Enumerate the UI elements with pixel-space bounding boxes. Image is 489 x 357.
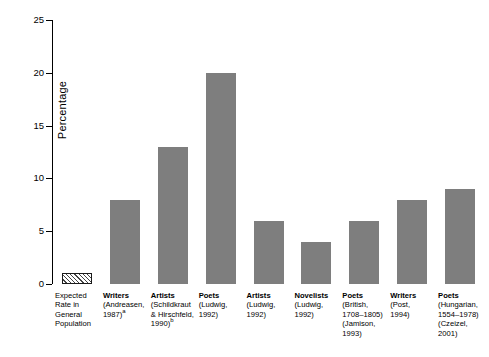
bar-slot: [206, 20, 236, 284]
x-axis-label-line: 1994): [390, 310, 444, 319]
bar-slot: [301, 20, 331, 284]
x-axis-label-head: Artists: [247, 291, 301, 300]
y-tick-label: 10: [18, 173, 44, 183]
y-tick-label-text: 10: [22, 173, 44, 183]
x-axis-label-head: Poets: [438, 291, 489, 300]
bar-slot: [158, 20, 188, 284]
x-axis-label-line: 1992): [199, 310, 253, 319]
y-tick-label: 15: [18, 121, 44, 131]
x-axis-label-head: Expected: [55, 291, 109, 300]
x-axis-label: Poets(Ludwig,1992): [199, 291, 253, 319]
x-axis-label: Poets(British,1708–1805)(Jamison,1993): [342, 291, 396, 338]
x-axis-label-line: General: [55, 310, 109, 319]
x-axis-label-line: 1990)b: [151, 319, 205, 328]
x-axis-label-superscript: a: [122, 308, 125, 314]
bar-slot: [349, 20, 379, 284]
x-axis-label-line: (Hungarian,: [438, 300, 489, 309]
x-axis-label-line: (Ludwig,: [247, 300, 301, 309]
y-tick-mark: [46, 20, 52, 21]
x-axis-label: Novelists(Ludwig,1992): [294, 291, 348, 319]
y-tick-label-text: 15: [22, 121, 44, 131]
x-axis-label-line: 2001): [438, 329, 489, 338]
y-tick-label: 0: [18, 279, 44, 289]
x-axis-label-line: 1992): [294, 310, 348, 319]
x-axis-label: ExpectedRate inGeneralPopulation: [55, 291, 109, 329]
x-axis-label-line: 1987)a: [103, 310, 157, 319]
y-tick-label-text: 5: [22, 226, 44, 236]
x-axis-label-line: (British,: [342, 300, 396, 309]
x-axis-label-superscript: b: [170, 318, 173, 324]
y-tick-label-text: 20: [22, 68, 44, 78]
bar[interactable]: [349, 221, 379, 284]
x-axis-label-head: Poets: [199, 291, 253, 300]
bar-slot: [445, 20, 475, 284]
x-axis-label-head: Novelists: [294, 291, 348, 300]
x-axis-label: Poets(Hungarian,1554–1978)(Czeizel,2001): [438, 291, 489, 338]
bar-slot: [110, 20, 140, 284]
x-axis-label-head: Poets: [342, 291, 396, 300]
y-tick-label: 20: [18, 68, 44, 78]
y-tick-mark: [46, 284, 52, 285]
x-axis-label-line: (Ludwig,: [199, 300, 253, 309]
x-axis-label-head: Writers: [103, 291, 157, 300]
y-tick-mark: [46, 178, 52, 179]
x-axis-label: Artists(Schildkraut& Hirschfeld,1990)b: [151, 291, 205, 329]
bar[interactable]: [206, 73, 236, 284]
x-axis-label-line: (Jamison,: [342, 319, 396, 328]
bar-slot: [62, 20, 92, 284]
x-axis-label-head: Artists: [151, 291, 205, 300]
x-axis-label-line: 1554–1978): [438, 310, 489, 319]
plot-area: [53, 20, 484, 284]
x-axis-label-line: & Hirschfeld,: [151, 310, 205, 319]
bar[interactable]: [62, 273, 92, 284]
x-axis-label-line: (Andreasen,: [103, 300, 157, 309]
x-axis-label-line: (Post,: [390, 300, 444, 309]
x-axis-label-line: (Ludwig,: [294, 300, 348, 309]
bar[interactable]: [110, 200, 140, 284]
x-axis-label: Writers(Andreasen,1987)a: [103, 291, 157, 319]
bar-chart-figure: Percentage 0510152025 ExpectedRate inGen…: [0, 0, 489, 357]
x-axis-label: Writers(Post,1994): [390, 291, 444, 319]
y-tick-mark: [46, 231, 52, 232]
bar[interactable]: [301, 242, 331, 284]
x-axis-label: Artists(Ludwig,1992): [247, 291, 301, 319]
y-tick-mark: [46, 126, 52, 127]
bar-slot: [254, 20, 284, 284]
y-tick-label-text: 0: [22, 279, 44, 289]
x-axis-label-line: (Schildkraut: [151, 300, 205, 309]
x-axis-label-line: Rate in: [55, 300, 109, 309]
bar-slot: [397, 20, 427, 284]
y-tick-label: 25: [18, 15, 44, 25]
x-axis-label-line: Population: [55, 319, 109, 328]
x-axis-label-line: 1708–1805): [342, 310, 396, 319]
bar[interactable]: [254, 221, 284, 284]
x-axis-label-head: Writers: [390, 291, 444, 300]
y-tick-mark: [46, 73, 52, 74]
x-axis-label-line: 1993): [342, 329, 396, 338]
x-axis-label-line: 1992): [247, 310, 301, 319]
x-axis-label-line: (Czeizel,: [438, 319, 489, 328]
y-tick-label: 5: [18, 226, 44, 236]
bar[interactable]: [158, 147, 188, 284]
y-tick-label-text: 25: [22, 15, 44, 25]
bar[interactable]: [397, 200, 427, 284]
bar[interactable]: [445, 189, 475, 284]
